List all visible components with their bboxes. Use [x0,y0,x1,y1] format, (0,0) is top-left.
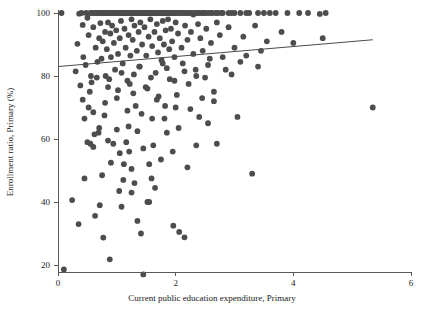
data-point [165,16,171,22]
data-point [97,20,103,26]
data-point [161,42,167,48]
data-point [155,49,161,55]
data-point [149,175,155,181]
data-point [193,142,199,148]
data-point [121,161,127,167]
data-point [119,70,125,76]
data-point [73,68,79,74]
y-tick-label: 20 [41,260,51,270]
data-point [273,10,279,16]
data-point [136,64,142,70]
data-point [129,16,135,22]
data-point [108,54,114,60]
data-point [115,87,121,93]
data-point [83,62,89,68]
y-tick-label: 60 [41,134,51,144]
y-tick-label: 80 [41,71,51,81]
data-point [279,29,285,35]
data-point [134,48,140,54]
data-point [188,29,194,35]
data-point [190,51,196,57]
data-point [246,10,252,16]
data-point [140,146,146,152]
data-point [93,45,99,51]
data-point [104,46,110,52]
data-point [138,231,144,237]
data-point [139,42,145,48]
data-point [136,29,142,35]
data-point [223,67,229,73]
data-point [130,37,136,43]
data-point [317,11,323,17]
data-point [135,218,141,224]
data-point [232,45,238,51]
data-point [97,202,103,208]
data-point [208,40,214,46]
data-point [237,59,243,65]
data-point [127,81,133,87]
data-point [166,46,172,52]
data-point [267,10,273,16]
data-point [202,75,208,81]
data-point [186,81,192,87]
data-point [146,34,152,40]
data-point [229,72,235,78]
scatter-plot-figure: 20406080100 0246 Current public educatio… [0,0,424,314]
data-point [180,61,186,67]
data-point [126,32,132,38]
trend-line [58,40,373,67]
data-point [176,229,182,235]
data-point [173,105,179,111]
data-point [108,160,114,166]
data-point [152,29,158,35]
data-point [164,130,170,136]
data-point [100,38,106,44]
data-point [105,138,111,144]
data-point [195,21,201,27]
plot-canvas: 20406080100 0246 Current public educatio… [0,0,424,314]
data-point [153,70,159,76]
data-point [169,38,175,44]
data-point [235,114,241,120]
data-point [152,185,158,191]
data-point [199,95,205,101]
data-point [96,125,102,131]
data-point [203,26,209,32]
data-point [214,141,220,147]
data-point [205,120,211,126]
data-point [89,79,95,85]
data-point [296,10,302,16]
data-point [197,35,203,41]
data-point [61,267,67,273]
data-point [160,18,166,24]
data-point [133,103,139,109]
data-point [255,64,261,70]
data-point [129,166,135,172]
data-point [88,73,94,79]
data-point [320,35,326,41]
data-point [185,37,191,43]
data-point [149,116,155,122]
data-point [80,54,86,60]
data-point [92,213,98,219]
data-point [102,29,108,35]
data-point [172,78,178,84]
data-point [185,164,191,170]
data-point [158,157,164,163]
data-point [147,16,153,22]
data-point [220,10,226,16]
data-point [92,131,98,137]
data-point [94,75,100,81]
data-point [105,84,111,90]
y-axis-title: Enrollment ratio, Primary (%) [5,88,15,196]
data-point [130,90,136,96]
data-point [77,83,83,89]
data-point [137,20,143,26]
data-point [106,76,112,82]
data-point [112,67,118,73]
x-tick-label: 6 [409,278,414,288]
data-point [370,105,376,111]
data-point [174,92,180,98]
data-point [110,141,116,147]
data-point [102,100,108,106]
